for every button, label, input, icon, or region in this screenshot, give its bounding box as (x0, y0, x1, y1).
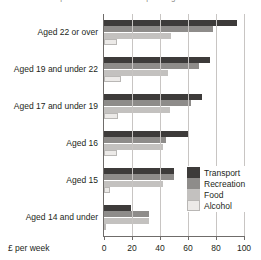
bar-transport (104, 131, 188, 137)
bar-alcohol (104, 39, 117, 45)
gridline (132, 14, 133, 236)
legend-label: Food (204, 190, 223, 200)
x-axis-tick (216, 236, 217, 240)
bar-alcohol (104, 187, 110, 193)
x-axis-tick-label: 100 (237, 243, 251, 253)
category-label: Aged 15 (66, 175, 98, 185)
x-axis-tick (188, 236, 189, 240)
bar-food (104, 144, 163, 150)
legend-swatch-alcohol-icon (187, 200, 200, 211)
bar-recreation (104, 100, 191, 106)
bar-food (104, 33, 171, 39)
x-axis-tick (132, 236, 133, 240)
chart-legend: TransportRecreationFoodAlcohol (186, 166, 247, 212)
bar-recreation (104, 137, 166, 143)
bar-group (104, 57, 244, 83)
x-axis-tick-label: 0 (102, 243, 107, 253)
legend-item[interactable]: Alcohol (187, 200, 245, 211)
bar-food (104, 218, 149, 224)
bar-recreation (104, 63, 199, 69)
legend-item[interactable]: Transport (187, 167, 245, 178)
legend-swatch-recreation-icon (187, 178, 200, 189)
chart-title: Components of Consumer Spending (43, 0, 176, 2)
legend-label: Alcohol (204, 201, 232, 211)
bar-transport (104, 20, 237, 26)
gridline (160, 14, 161, 236)
x-axis-tick (244, 236, 245, 240)
x-axis-tick-label: 60 (183, 243, 192, 253)
legend-swatch-transport-icon (187, 167, 200, 178)
x-axis-tick (160, 236, 161, 240)
bar-recreation (104, 26, 213, 32)
bar-alcohol (104, 76, 121, 82)
x-axis-tick-label: 40 (155, 243, 164, 253)
bar-alcohol (104, 113, 118, 119)
bar-group (104, 131, 244, 157)
category-label: Aged 16 (66, 138, 98, 148)
bar-chart: Components of Consumer Spending 02040608… (0, 0, 261, 260)
bar-food (104, 181, 163, 187)
x-axis-title: £ per week (8, 243, 50, 253)
legend-label: Recreation (204, 179, 245, 189)
category-label: Aged 19 and under 22 (14, 64, 98, 74)
category-label: Aged 14 and under (26, 212, 98, 222)
chart-title-cropped: Components of Consumer Spending (0, 0, 261, 6)
legend-label: Transport (204, 168, 240, 178)
bar-alcohol (104, 224, 106, 230)
bar-transport (104, 168, 174, 174)
x-axis-tick-label: 20 (127, 243, 136, 253)
bar-recreation (104, 211, 149, 217)
bar-transport (104, 57, 210, 63)
x-axis-tick (104, 236, 105, 240)
x-axis-tick-label: 80 (211, 243, 220, 253)
bar-transport (104, 205, 131, 211)
legend-item[interactable]: Recreation (187, 178, 245, 189)
legend-swatch-food-icon (187, 189, 200, 200)
category-label: Aged 22 or over (38, 27, 98, 37)
x-axis-line (103, 236, 245, 237)
legend-item[interactable]: Food (187, 189, 245, 200)
bar-recreation (104, 174, 174, 180)
bar-group (104, 94, 244, 120)
bar-food (104, 70, 168, 76)
category-label: Aged 17 and under 19 (14, 101, 98, 111)
bar-group (104, 20, 244, 46)
bar-alcohol (104, 150, 117, 156)
